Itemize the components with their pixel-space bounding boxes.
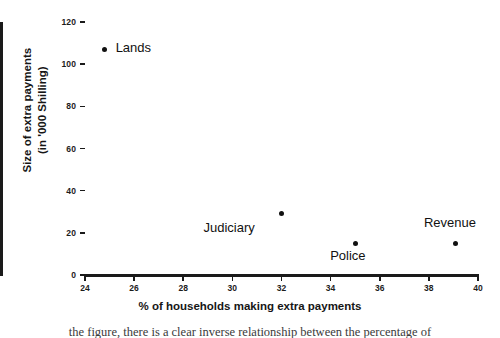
data-point-label: Police [330, 248, 365, 263]
caption-remnant: the figure, there is a clear inverse rel… [0, 326, 500, 338]
y-axis-line [0, 22, 3, 276]
x-axis-tick [182, 276, 184, 281]
x-axis-tick-label: 36 [365, 283, 395, 293]
y-axis-tick-label: 80 [48, 101, 76, 111]
x-axis-tick [232, 276, 234, 281]
y-axis-tick-label: 100 [48, 59, 76, 69]
y-axis-tick-label: 40 [48, 186, 76, 196]
data-point-marker [353, 241, 358, 246]
y-axis-title: Size of extra payments (in '000 Shilling… [20, 0, 50, 220]
x-axis-tick [428, 276, 430, 281]
y-axis-title-line2: (in '000 Shilling) [36, 66, 48, 154]
y-axis-tick [80, 148, 85, 150]
data-point-label: Judiciary [204, 220, 255, 235]
x-axis-tick-label: 24 [70, 283, 100, 293]
y-axis-tick-label: 20 [48, 228, 76, 238]
x-axis-tick-label: 32 [267, 283, 297, 293]
x-axis-tick [84, 276, 86, 281]
x-axis-tick-label: 30 [217, 283, 247, 293]
y-axis-tick [80, 190, 85, 192]
data-point-label: Revenue [424, 215, 476, 230]
x-axis-tick [133, 276, 135, 281]
x-axis-title: % of households making extra payments [0, 300, 500, 312]
y-axis-tick-label: 120 [48, 17, 76, 27]
scatter-plot-figure: 020406080100120 242628303234363840 Lands… [0, 0, 500, 338]
y-axis-tick [80, 21, 85, 23]
x-axis-tick [477, 276, 479, 281]
x-axis-tick [281, 276, 283, 281]
x-axis-tick [379, 276, 381, 281]
x-axis-tick [330, 276, 332, 281]
x-axis-tick-label: 40 [463, 283, 493, 293]
x-axis-tick-label: 38 [414, 283, 444, 293]
y-axis-tick [80, 232, 85, 234]
data-point-label: Lands [116, 40, 151, 55]
y-axis-tick-label: 0 [48, 270, 76, 280]
x-axis-tick-label: 34 [316, 283, 346, 293]
data-point-marker [453, 241, 458, 246]
x-axis-tick-label: 26 [119, 283, 149, 293]
data-point-marker [279, 211, 284, 216]
x-axis-tick-label: 28 [168, 283, 198, 293]
y-axis-tick-label: 60 [48, 144, 76, 154]
y-axis-tick [80, 63, 85, 65]
data-point-marker [102, 47, 107, 52]
y-axis-title-line1: Size of extra payments [21, 48, 33, 173]
y-axis-tick [80, 106, 85, 108]
